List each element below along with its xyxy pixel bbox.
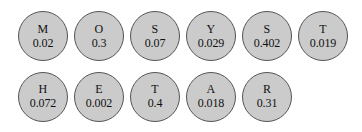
node-circle[interactable]: O 0.3 (74, 11, 124, 61)
node-circle[interactable]: Y 0.029 (186, 11, 236, 61)
node-letter: T (319, 23, 327, 36)
node-letter: A (207, 83, 216, 96)
node-letter: E (95, 83, 103, 96)
node-value: 0.072 (30, 97, 57, 110)
node-letter: T (151, 83, 159, 96)
node-value: 0.029 (198, 37, 225, 50)
node-value: 0.02 (33, 37, 54, 50)
node-value: 0.31 (257, 97, 278, 110)
node-row-2: H 0.072 E 0.002 T 0.4 A 0.018 R 0.31 (0, 61, 362, 122)
node-circle[interactable]: S 0.402 (242, 11, 292, 61)
node-circle[interactable]: T 0.019 (298, 11, 348, 61)
node-letter: R (263, 83, 271, 96)
node-value: 0.002 (86, 97, 113, 110)
node-letter: Y (207, 23, 216, 36)
node-value: 0.4 (148, 97, 163, 110)
node-value: 0.3 (92, 37, 107, 50)
node-row-1: M 0.02 O 0.3 S 0.07 Y 0.029 S 0.402 T 0.… (0, 0, 362, 61)
node-circle[interactable]: A 0.018 (186, 72, 236, 122)
node-circle[interactable]: S 0.07 (130, 11, 180, 61)
node-circle[interactable]: H 0.072 (18, 72, 68, 122)
node-value: 0.019 (310, 37, 337, 50)
node-circle[interactable]: R 0.31 (242, 72, 292, 122)
node-circle[interactable]: E 0.002 (74, 72, 124, 122)
node-circle-diagram: M 0.02 O 0.3 S 0.07 Y 0.029 S 0.402 T 0.… (0, 0, 362, 132)
node-value: 0.402 (254, 37, 281, 50)
node-value: 0.018 (198, 97, 225, 110)
node-letter: S (264, 23, 271, 36)
node-value: 0.07 (145, 37, 166, 50)
node-letter: S (152, 23, 159, 36)
node-letter: H (39, 83, 48, 96)
node-letter: O (95, 23, 104, 36)
node-letter: M (38, 23, 49, 36)
node-circle[interactable]: M 0.02 (18, 11, 68, 61)
node-circle[interactable]: T 0.4 (130, 72, 180, 122)
